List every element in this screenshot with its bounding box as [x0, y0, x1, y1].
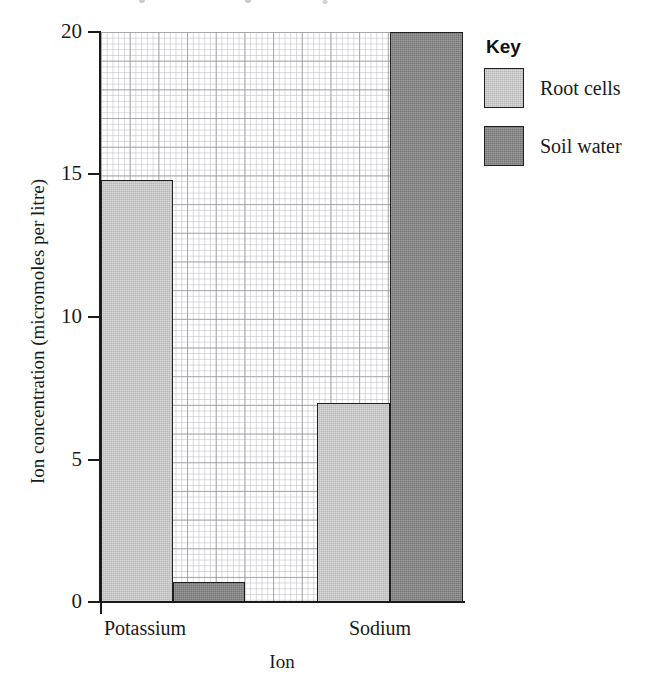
x-tick-label-potassium: Potassium	[80, 618, 210, 638]
legend-label-soil-water: Soil water	[540, 136, 622, 156]
legend-item-soil-water: Soil water	[484, 126, 644, 166]
x-tick-label-sodium: Sodium	[320, 618, 440, 638]
y-tick-10	[88, 316, 100, 318]
y-tick-label-0-wrap: 0	[22, 591, 82, 613]
cropped-text-sliver	[120, 0, 450, 7]
y-tick-20	[88, 31, 100, 33]
bar-sodium-root-cells	[317, 403, 390, 603]
x-tick-potassium	[100, 602, 102, 614]
y-tick-label-0: 0	[22, 591, 82, 612]
legend: Key Root cells Soil water	[484, 36, 644, 184]
legend-title: Key	[486, 36, 644, 58]
plot-area	[101, 32, 463, 602]
legend-swatch-root-cells	[484, 68, 524, 108]
x-axis-title: Ion	[101, 652, 463, 671]
legend-swatch-soil-water	[484, 126, 524, 166]
y-tick-label-20-wrap: 20	[22, 21, 82, 43]
legend-label-root-cells: Root cells	[540, 78, 621, 98]
y-axis-title: Ion concentration (micromoles per litre)	[28, 132, 47, 532]
y-tick-label-20: 20	[22, 21, 82, 42]
x-axis-line	[99, 601, 465, 603]
bar-sodium-soil-water	[390, 32, 463, 602]
bar-potassium-root-cells	[101, 180, 173, 602]
bar-potassium-soil-water	[173, 582, 245, 602]
bar-chart-figure: 20 15 10 5 0 Potassium Sodium Ion concen…	[0, 0, 647, 688]
legend-item-root-cells: Root cells	[484, 68, 644, 108]
y-tick-0	[88, 601, 100, 603]
y-tick-5	[88, 459, 100, 461]
y-tick-15	[88, 173, 100, 175]
